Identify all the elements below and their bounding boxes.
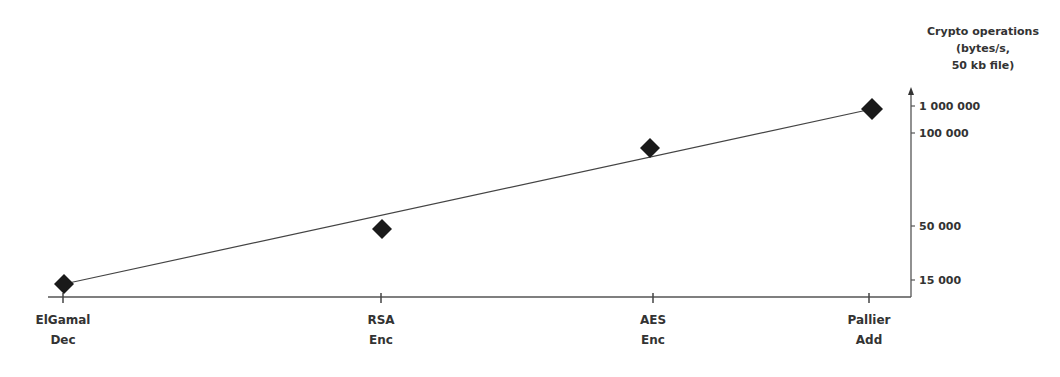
y-tick-label: 100 000 — [919, 127, 969, 140]
y-axis-title-line-3: 50 kb file) — [952, 59, 1015, 72]
x-label-rsa-line-1: RSA — [367, 313, 395, 327]
x-label-aes-line-2: Enc — [641, 333, 665, 347]
y-axis-title-line-1: Crypto operations — [927, 25, 1039, 38]
x-label-elgamal-line-1: ElGamal — [36, 313, 91, 327]
x-label-pallier-line-2: Add — [856, 333, 882, 347]
diamond-marker-rsa — [372, 219, 392, 239]
trend-line — [64, 109, 872, 284]
x-label-rsa-line-2: Enc — [369, 333, 393, 347]
y-tick-label: 50 000 — [919, 220, 961, 233]
diamond-marker-pallier — [861, 98, 883, 120]
x-ticks — [63, 293, 869, 303]
y-ticks: 1 000 000 100 000 50 000 15 000 — [911, 100, 981, 287]
y-axis-title-line-2: (bytes/s, — [956, 42, 1010, 55]
y-tick-label: 15 000 — [919, 274, 961, 287]
x-label-aes-line-1: AES — [640, 313, 666, 327]
chart: Crypto operations (bytes/s, 50 kb file) … — [0, 0, 1060, 377]
x-label-pallier-line-1: Pallier — [848, 313, 891, 327]
y-tick-label: 1 000 000 — [919, 100, 981, 113]
x-label-elgamal-line-2: Dec — [50, 333, 75, 347]
diamond-marker-elgamal — [54, 274, 74, 294]
y-axis-arrow-icon — [908, 87, 914, 95]
